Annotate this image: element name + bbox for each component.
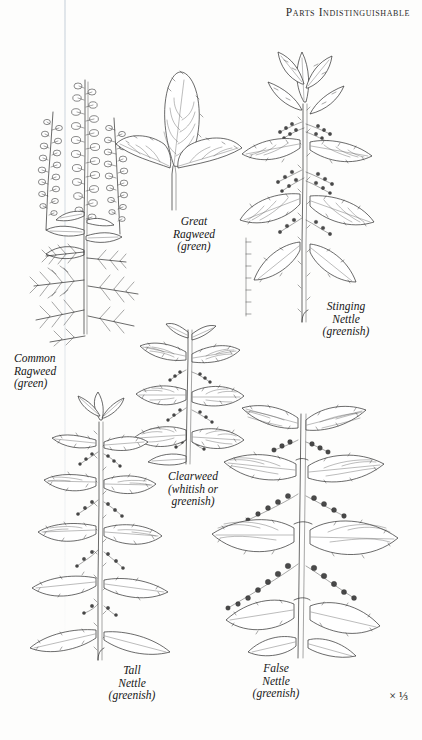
plate-great-ragweed: [110, 62, 250, 212]
stinging-nettle-drawing: [240, 44, 418, 324]
false-nettle-drawing: [190, 388, 410, 660]
ragweed-flower-spike-center: [71, 83, 99, 220]
caption-stinging-nettle: Stinging Nettle (greenish): [298, 300, 394, 338]
tall-nettle-leaf-tier-5: [30, 629, 170, 654]
false-nettle-mid-leaves: [224, 452, 384, 483]
caption-tall-nettle: Tall Nettle (greenish): [82, 664, 182, 702]
tall-nettle-drawing: [30, 392, 170, 662]
illustration-page: Parts Indistinguishable: [0, 0, 422, 740]
false-nettle-lower-leaves: [212, 518, 398, 558]
tall-nettle-flowers-2: [76, 500, 123, 517]
great-ragweed-drawing: [110, 62, 250, 212]
false-nettle-top-leaves: [242, 405, 366, 430]
tall-nettle-leaf-tier-2: [44, 472, 156, 494]
nettle-terminal-cluster: [268, 52, 344, 114]
nettle-leaf-pair-bottom: [254, 242, 356, 283]
tall-nettle-apex: [78, 392, 124, 420]
stinging-hairs: [298, 107, 310, 312]
false-nettle-spike-2: [246, 493, 347, 522]
caption-false-nettle: False Nettle (greenish): [224, 662, 328, 700]
ragweed-flower-spike-left: [38, 119, 62, 215]
tall-nettle-leaf-tier-1: [52, 433, 148, 450]
scale-note: × ⅓: [389, 689, 408, 704]
running-head: Parts Indistinguishable: [286, 6, 410, 18]
nettle-leaf-pair-lower: [240, 194, 374, 226]
tall-nettle-flowers-4: [82, 604, 117, 616]
clearweed-leaf-pair-1: [140, 342, 240, 363]
caption-great-ragweed: Great Ragweed (green): [152, 215, 236, 253]
plate-false-nettle: [190, 388, 410, 660]
tall-nettle-flowers-3: [75, 550, 124, 569]
tall-nettle-leaf-tier-4: [32, 572, 168, 600]
plate-tall-nettle: [30, 392, 170, 662]
tall-nettle-leaf-tier-3: [38, 522, 162, 544]
caption-common-ragweed: Common Ragweed (green): [14, 352, 106, 390]
tall-nettle-flowers-1: [79, 452, 122, 467]
scale-bar: [246, 238, 251, 316]
plate-stinging-nettle: [240, 44, 418, 324]
